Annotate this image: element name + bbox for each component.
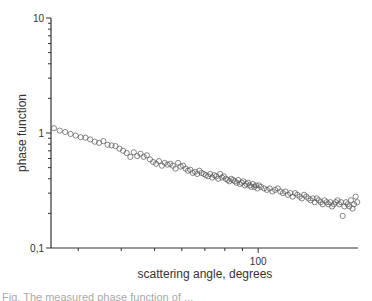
data-point xyxy=(230,177,235,182)
x-axis-title: scattering angle, degrees xyxy=(138,267,273,281)
data-point xyxy=(63,129,68,134)
data-point xyxy=(141,154,146,159)
data-point xyxy=(232,179,237,184)
data-point xyxy=(113,144,118,149)
data-point xyxy=(57,128,62,133)
y-axis-title: phase function xyxy=(15,94,29,172)
data-point xyxy=(101,139,106,144)
data-point xyxy=(239,180,244,185)
y-tick-label: 10 xyxy=(33,13,45,24)
data-point xyxy=(68,131,73,136)
chart: 1010,1100 scattering angle, degrees phas… xyxy=(0,0,372,290)
x-tick-label: 100 xyxy=(250,256,267,267)
data-point xyxy=(353,194,358,199)
data-point xyxy=(176,160,181,165)
figure-caption: Fig. The measured phase function of ... xyxy=(2,291,372,301)
data-point xyxy=(128,154,133,159)
data-point xyxy=(244,181,249,186)
data-point xyxy=(73,133,78,138)
data-point xyxy=(159,163,164,168)
data-points xyxy=(51,126,359,219)
y-tick-label: 0,1 xyxy=(30,243,44,254)
y-tick-label: 1 xyxy=(38,128,44,139)
data-point xyxy=(51,126,56,131)
data-point xyxy=(225,177,230,182)
data-point xyxy=(78,135,83,140)
data-point xyxy=(253,183,258,188)
data-point xyxy=(340,213,345,218)
